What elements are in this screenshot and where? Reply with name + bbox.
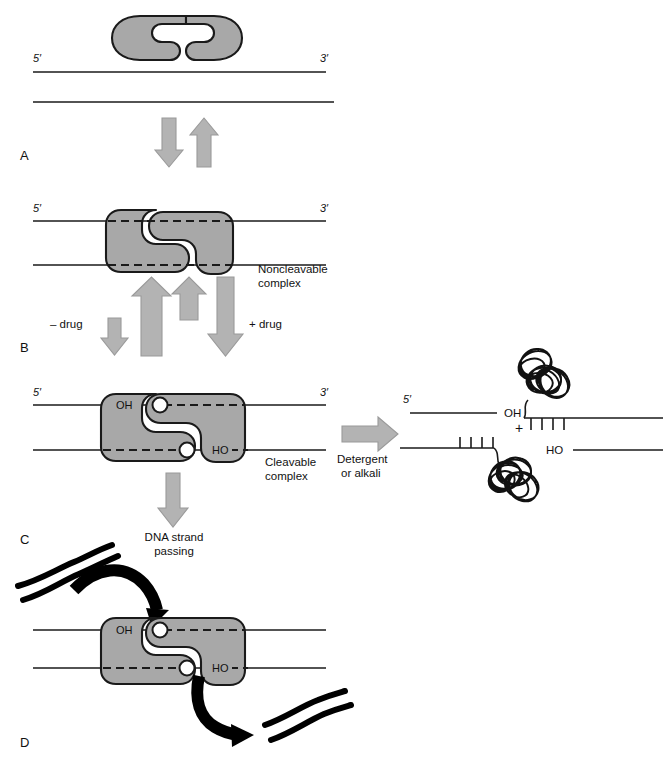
panel-b-five-prime-label: 5′ [33, 202, 41, 216]
panel-c-arrow-detergent [342, 417, 398, 451]
panel-a-arrow-up [190, 118, 218, 167]
panel-a-enzyme [112, 16, 242, 60]
panel-c-covalent-link-top [153, 398, 168, 413]
panel-b-arrow-plus-drug-down [208, 277, 243, 356]
panel-b-three-prime-label: 3′ [320, 202, 328, 216]
panel-letter-d: D [20, 735, 29, 750]
panel-b-arrow-tall-up [132, 277, 171, 356]
diagram-svg [0, 0, 663, 757]
panel-b-complex-label-line1: Noncleavable [258, 262, 328, 276]
panel-c-treatment-label-line1: Detergent [337, 452, 388, 466]
panel-c-treatment-label-line2: or alkali [341, 466, 381, 480]
panel-c-ho-label: HO [212, 444, 229, 458]
panel-b-arrow-minus-drug-down [101, 318, 128, 355]
product-plus-sign: + [515, 420, 523, 438]
product-five-prime-label: 5′ [403, 393, 411, 407]
panel-a-group [33, 16, 334, 167]
panel-d-covalent-link-bottom [180, 661, 195, 676]
panel-a-five-prime-label: 5′ [33, 52, 41, 66]
panel-c-arrow-strand-passing [158, 473, 188, 527]
product-ho-label: HO [546, 443, 563, 457]
product-bottom-left-ticks [460, 437, 493, 448]
panel-c-strand-passing-label-line2: passing [124, 544, 224, 558]
panel-c-group [33, 344, 663, 527]
figure-canvas: 5′ 3′ A 5′ 3′ Noncleavable complex – dru… [0, 0, 663, 757]
product-bottom-left-protein-scribble [482, 456, 544, 507]
panel-letter-b: B [20, 340, 29, 355]
panel-d-ho-label: HO [212, 662, 229, 676]
panel-c-strand-passing-label-line1: DNA strand [124, 530, 224, 544]
panel-c-complex-label-line2: complex [265, 469, 308, 483]
panel-b-enzyme [106, 210, 233, 274]
panel-d-oh-label: OH [116, 624, 133, 638]
panel-c-covalent-link-bottom [180, 443, 195, 458]
panel-d-covalent-link-top [153, 623, 168, 638]
panel-d-arrow-out [197, 676, 254, 747]
product-top-right-ticks [531, 418, 564, 430]
panel-c-oh-label: OH [116, 399, 133, 413]
panel-c-complex-label-line1: Cleavable [265, 455, 316, 469]
panel-a-arrow-down [155, 118, 183, 167]
panel-c-five-prime-label: 5′ [33, 386, 41, 400]
panel-b-plus-drug-label: + drug [249, 317, 282, 331]
product-top-right-linker [524, 400, 528, 418]
panel-letter-c: C [20, 532, 29, 547]
product-oh-label: OH [504, 406, 521, 420]
panel-c-three-prime-label: 3′ [320, 386, 328, 400]
product-top-right-protein-scribble [513, 344, 575, 404]
product-bottom-left-linker [494, 448, 499, 464]
panel-b-minus-drug-label: – drug [50, 317, 83, 331]
panel-d-outgoing-strand-2 [271, 705, 351, 740]
panel-d-group [18, 545, 351, 747]
panel-b-complex-label-line2: complex [258, 276, 301, 290]
panel-b-arrow-medium-up [172, 277, 206, 320]
panel-letter-a: A [20, 148, 29, 163]
panel-a-three-prime-label: 3′ [320, 52, 328, 66]
